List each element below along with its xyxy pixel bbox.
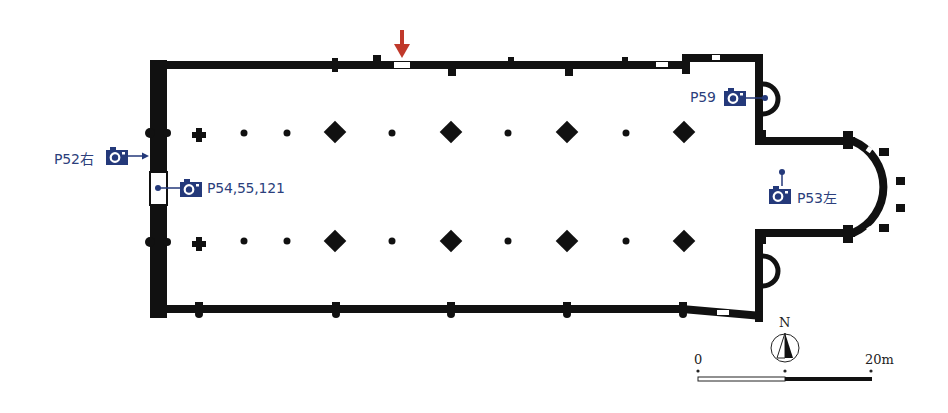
- scale-start-label: 0: [694, 352, 702, 367]
- apse: [853, 141, 883, 233]
- photo-label-p53: P53左: [797, 187, 836, 207]
- south-arcade: [192, 230, 695, 253]
- scale-bar: [696, 369, 872, 381]
- south-wall: [150, 305, 685, 313]
- scale-end-label: 20m: [865, 352, 894, 367]
- north-door: [394, 62, 410, 68]
- west-wall-upper: [150, 60, 167, 172]
- north-arcade: [192, 121, 695, 144]
- west-wall-lower: [150, 205, 167, 318]
- north-arrow-icon: [771, 333, 799, 362]
- camera-icon: [769, 186, 791, 204]
- photo-label-p54: P54,55,121: [207, 180, 285, 196]
- photo-label-p52: P52右: [54, 148, 93, 168]
- north-label: N: [779, 315, 790, 330]
- north-wall: [150, 61, 685, 69]
- camera-icon: [180, 179, 202, 197]
- camera-icon: [724, 88, 746, 106]
- camera-icon: [106, 147, 128, 165]
- photo-label-p59: P59: [690, 89, 716, 105]
- arrow-down-icon: [394, 30, 410, 58]
